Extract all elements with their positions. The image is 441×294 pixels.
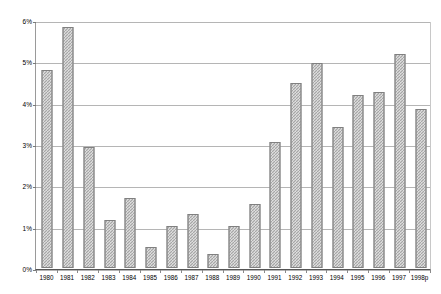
x-axis-tickmark	[160, 270, 161, 273]
bar-slot	[265, 23, 286, 268]
x-axis-tickmark	[77, 270, 78, 273]
y-axis-tickmark	[33, 63, 36, 64]
bar	[394, 54, 405, 268]
bar-slot	[390, 23, 411, 268]
y-axis-tickmark	[33, 187, 36, 188]
bar-series	[37, 23, 429, 268]
x-axis-tickmark	[368, 270, 369, 273]
bar	[63, 27, 74, 268]
bar	[270, 142, 281, 268]
bar-slot	[58, 23, 79, 268]
x-axis-tickmark	[98, 270, 99, 273]
y-axis-tick-label: 0%	[16, 266, 32, 273]
x-axis-tickmark	[389, 270, 390, 273]
bar-slot	[182, 23, 203, 268]
bar-slot	[78, 23, 99, 268]
y-axis-tickmark	[33, 146, 36, 147]
y-axis-tick-label: 6%	[16, 18, 32, 25]
x-axis-tickmark	[430, 270, 431, 273]
y-axis-tick-label: 3%	[16, 142, 32, 149]
x-axis-tickmark	[285, 270, 286, 273]
bar	[353, 95, 364, 268]
y-axis-tickmark	[33, 22, 36, 23]
y-axis-tick-label: 5%	[16, 59, 32, 66]
bar-slot	[369, 23, 390, 268]
x-axis-tickmark	[140, 270, 141, 273]
bar	[104, 220, 115, 268]
y-axis-tickmark	[33, 105, 36, 106]
x-axis-tickmark	[36, 270, 37, 273]
bar-slot	[327, 23, 348, 268]
bar	[415, 109, 426, 268]
bar	[208, 254, 219, 268]
x-axis-tickmark	[57, 270, 58, 273]
bar-slot	[161, 23, 182, 268]
bar	[42, 70, 53, 268]
x-axis-tickmark	[181, 270, 182, 273]
bar	[374, 92, 385, 268]
bar-slot	[348, 23, 369, 268]
bar-slot	[120, 23, 141, 268]
bar-slot	[203, 23, 224, 268]
x-axis-tickmark	[409, 270, 410, 273]
bar	[291, 83, 302, 268]
bar-slot	[99, 23, 120, 268]
x-axis-tickmark	[223, 270, 224, 273]
x-axis-tickmark	[306, 270, 307, 273]
bar	[166, 226, 177, 268]
bar	[249, 204, 260, 268]
bar	[146, 247, 157, 268]
bar	[125, 198, 136, 268]
y-axis-tickmark	[33, 229, 36, 230]
bar	[311, 63, 322, 268]
bar-slot	[244, 23, 265, 268]
bar-slot	[37, 23, 58, 268]
x-axis-tickmark	[347, 270, 348, 273]
y-axis-tick-label: 1%	[16, 225, 32, 232]
bar	[332, 127, 343, 268]
x-axis-tick-labels: 1980198119821983198419851986198719881989…	[36, 274, 430, 288]
plot-area	[35, 22, 431, 270]
gridline	[36, 270, 430, 271]
x-axis-tickmark	[326, 270, 327, 273]
y-axis-tick-labels: 0%1%2%3%4%5%6%	[16, 0, 32, 294]
bar-chart: (% of GDP) 0%1%2%3%4%5%6% 19801981198219…	[0, 0, 441, 294]
x-axis-tickmark	[264, 270, 265, 273]
bar-slot	[307, 23, 328, 268]
x-axis-tickmark	[202, 270, 203, 273]
x-axis-tick-label: 1998p	[405, 274, 435, 282]
bar-slot	[410, 23, 431, 268]
x-axis-tickmark	[243, 270, 244, 273]
y-axis-tick-label: 4%	[16, 101, 32, 108]
bar	[83, 147, 94, 268]
bar-slot	[141, 23, 162, 268]
bar	[228, 226, 239, 268]
bar-slot	[224, 23, 245, 268]
x-axis-tickmark	[119, 270, 120, 273]
bar	[187, 214, 198, 268]
bar-slot	[286, 23, 307, 268]
y-axis-tick-label: 2%	[16, 183, 32, 190]
